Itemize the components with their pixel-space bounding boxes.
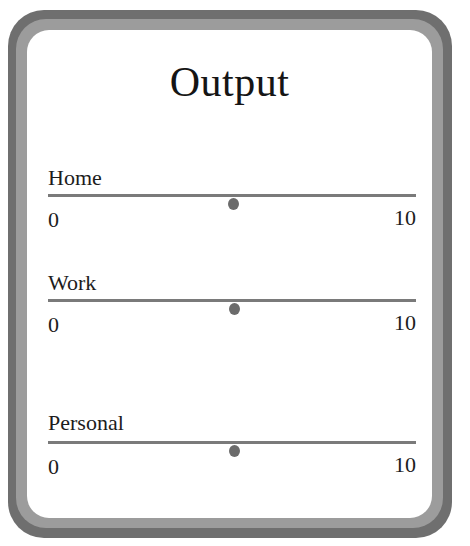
slider-home: Home 0 10 [48, 164, 416, 234]
slider-min-label-personal: 0 [48, 455, 59, 479]
slider-thumb-work[interactable] [229, 303, 240, 315]
slider-min-label-home: 0 [48, 208, 59, 232]
panel-title: Output [27, 58, 432, 106]
slider-track-home[interactable] [48, 194, 416, 197]
slider-max-label-personal: 10 [394, 453, 416, 477]
slider-label-work: Work [48, 271, 96, 295]
slider-track-personal[interactable] [48, 441, 416, 444]
slider-thumb-personal[interactable] [229, 445, 240, 457]
slider-track-work[interactable] [48, 299, 416, 302]
slider-thumb-home[interactable] [228, 198, 239, 210]
slider-personal: Personal 0 10 [48, 411, 416, 481]
slider-label-home: Home [48, 166, 102, 190]
slider-label-personal: Personal [48, 411, 124, 435]
slider-max-label-home: 10 [394, 206, 416, 230]
slider-work: Work 0 10 [48, 269, 416, 339]
slider-max-label-work: 10 [394, 311, 416, 335]
slider-min-label-work: 0 [48, 313, 59, 337]
